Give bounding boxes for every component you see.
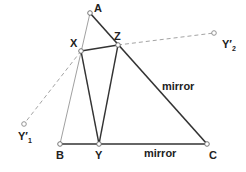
dashed-z-y2 [118, 33, 214, 45]
label-b: B [56, 149, 64, 161]
segment-xy [81, 51, 99, 144]
label-y2: Y′2 [222, 38, 236, 52]
label-c: C [209, 149, 217, 161]
segment-xz [81, 45, 118, 51]
label-a: A [94, 2, 102, 14]
label-x: X [70, 37, 78, 49]
point-y1 [22, 122, 27, 127]
point-x [79, 49, 84, 54]
dashed-x-y1 [24, 51, 81, 124]
point-y [97, 142, 102, 147]
label-y2-sub: 2 [232, 45, 236, 52]
point-c [205, 142, 210, 147]
label-y2-main: Y′ [222, 38, 232, 50]
label-y1-sub: 1 [28, 137, 32, 144]
label-y1: Y′1 [18, 130, 32, 144]
point-b [58, 142, 63, 147]
side-ab [60, 13, 90, 144]
label-y1-main: Y′ [18, 130, 28, 142]
point-y2 [212, 31, 217, 36]
side-ac-mirror [90, 13, 207, 144]
segment-zy [99, 45, 118, 144]
reflection-diagram: A X Z B Y C Y′1 Y′2 mirror mirror [0, 0, 246, 172]
point-a [88, 11, 93, 16]
label-z: Z [114, 30, 121, 42]
mirror-label-ac: mirror [162, 80, 195, 92]
point-z [116, 43, 121, 48]
label-y: Y [95, 149, 103, 161]
mirror-label-bc: mirror [144, 147, 177, 159]
